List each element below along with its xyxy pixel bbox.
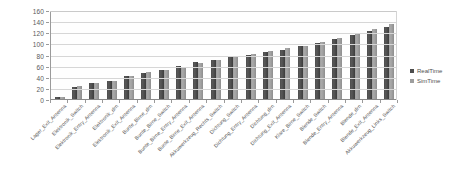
bar-simtime (320, 42, 325, 99)
x-axis-labels: Lager_Exit_AntennaElektronik_SwitchElekt… (0, 101, 476, 188)
bar-simtime (389, 24, 394, 99)
plot-frame-right (396, 11, 397, 100)
legend-label-realtime: RealTime (417, 66, 442, 76)
bar-simtime (303, 46, 308, 99)
bar-simtime (94, 83, 99, 99)
gridline (51, 67, 397, 68)
x-axis-tick (85, 100, 86, 103)
bar-chart: 020406080100120140160 Lager_Exit_Antenna… (0, 0, 476, 188)
bar-simtime (216, 60, 221, 99)
y-axis-tick (46, 44, 49, 45)
x-axis-tick (362, 100, 363, 103)
legend-item-simtime: SimTime (410, 76, 442, 86)
y-axis-tick (46, 100, 49, 101)
bar-simtime (164, 70, 169, 99)
bar-simtime (60, 97, 65, 99)
y-axis-tick-label: 20 (37, 85, 44, 92)
x-axis-tick (119, 100, 120, 103)
y-axis-tick (46, 78, 49, 79)
y-axis-tick (46, 22, 49, 23)
plot-area (50, 11, 397, 100)
plot-frame-top (50, 11, 397, 12)
y-axis-tick-label: 100 (33, 41, 44, 48)
bar-simtime (268, 51, 273, 99)
y-axis-tick-label: 60 (37, 63, 44, 70)
bar-simtime (181, 67, 186, 99)
x-axis-tick (154, 100, 155, 103)
x-axis-tick (241, 100, 242, 103)
y-axis-tick-label: 140 (33, 19, 44, 26)
y-axis-tick (46, 89, 49, 90)
gridline (51, 56, 397, 57)
legend-item-realtime: RealTime (410, 66, 442, 76)
gridline (51, 78, 397, 79)
legend-label-simtime: SimTime (417, 76, 440, 86)
y-axis: 020406080100120140160 (0, 0, 47, 101)
x-axis-tick (206, 100, 207, 103)
y-axis-tick-label: 80 (37, 52, 44, 59)
x-axis-tick (50, 100, 51, 103)
x-axis-tick (102, 100, 103, 103)
bar-simtime (129, 76, 134, 99)
y-axis-tick-label: 120 (33, 30, 44, 37)
x-axis-tick (276, 100, 277, 103)
x-axis-tick (397, 100, 398, 103)
legend-swatch-icon-realtime (410, 69, 414, 73)
x-axis-tick (345, 100, 346, 103)
x-axis-tick (171, 100, 172, 103)
bar-simtime (198, 63, 203, 99)
x-axis-tick (258, 100, 259, 103)
bar-simtime (251, 54, 256, 99)
gridline (51, 89, 397, 90)
x-axis-tick (224, 100, 225, 103)
x-axis-tick (310, 100, 311, 103)
y-axis-tick-label: 40 (37, 74, 44, 81)
y-axis-tick-label: 160 (33, 8, 44, 15)
y-axis-tick (46, 67, 49, 68)
legend-swatch-icon-simtime (410, 79, 414, 83)
y-axis-tick (46, 11, 49, 12)
bar-simtime (77, 86, 82, 99)
y-axis-tick (46, 33, 49, 34)
gridline (51, 44, 397, 45)
bar-simtime (146, 72, 151, 99)
chart-legend: RealTime SimTime (410, 66, 442, 86)
gridline (51, 33, 397, 34)
x-axis-tick (67, 100, 68, 103)
y-axis-tick (46, 56, 49, 57)
x-axis-tick (293, 100, 294, 103)
x-axis-tick (380, 100, 381, 103)
x-axis-tick (137, 100, 138, 103)
gridline (51, 22, 397, 23)
x-axis-tick (189, 100, 190, 103)
x-axis-tick (328, 100, 329, 103)
